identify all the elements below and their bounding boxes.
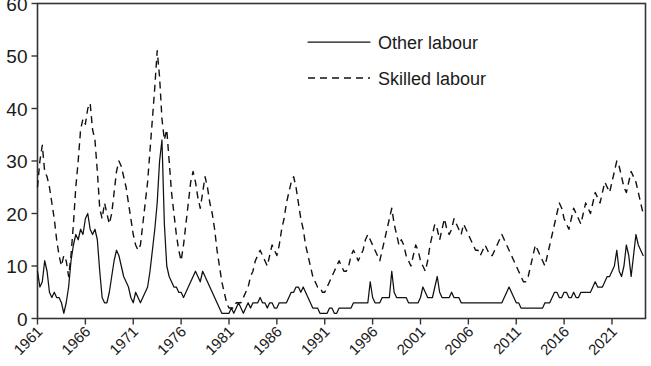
chart-container: 0102030405060 19611966197119761981198619… — [0, 0, 651, 366]
x-tick-label: 1976 — [154, 323, 190, 359]
x-tick-label: 2006 — [441, 323, 477, 359]
x-axis-tick-group: 1961196619711976198119861991199620012006… — [10, 319, 620, 359]
x-tick-label: 1991 — [297, 323, 333, 359]
x-tick-label: 2011 — [490, 323, 525, 358]
y-tick-label: 0 — [17, 309, 28, 330]
line-chart: 0102030405060 19611966197119761981198619… — [0, 0, 651, 366]
x-tick-label: 1966 — [58, 323, 94, 359]
x-tick-label: 2016 — [537, 323, 573, 359]
y-axis-tick-group: 0102030405060 — [6, 0, 37, 330]
x-tick-label: 2021 — [584, 323, 620, 359]
legend-label-other-labour: Other labour — [378, 33, 478, 53]
x-tick-label: 1981 — [201, 323, 237, 359]
chart-legend: Other labourSkilled labour — [308, 33, 486, 89]
y-tick-label: 40 — [6, 99, 27, 120]
x-tick-label: 2001 — [393, 323, 429, 359]
y-tick-label: 50 — [6, 46, 27, 67]
series-line-other-labour — [38, 140, 644, 313]
x-tick-label: 1986 — [249, 323, 285, 359]
plot-frame — [38, 4, 646, 319]
y-tick-label: 20 — [6, 204, 27, 225]
series-group — [38, 51, 644, 314]
x-tick-label: 1971 — [106, 323, 142, 359]
y-tick-label: 30 — [6, 151, 27, 172]
x-tick-label: 1961 — [10, 323, 46, 359]
series-line-skilled-labour — [38, 51, 644, 308]
y-tick-label: 10 — [6, 256, 27, 277]
legend-label-skilled-labour: Skilled labour — [378, 69, 486, 89]
y-tick-label: 60 — [6, 0, 27, 15]
x-tick-label: 1996 — [345, 323, 381, 359]
